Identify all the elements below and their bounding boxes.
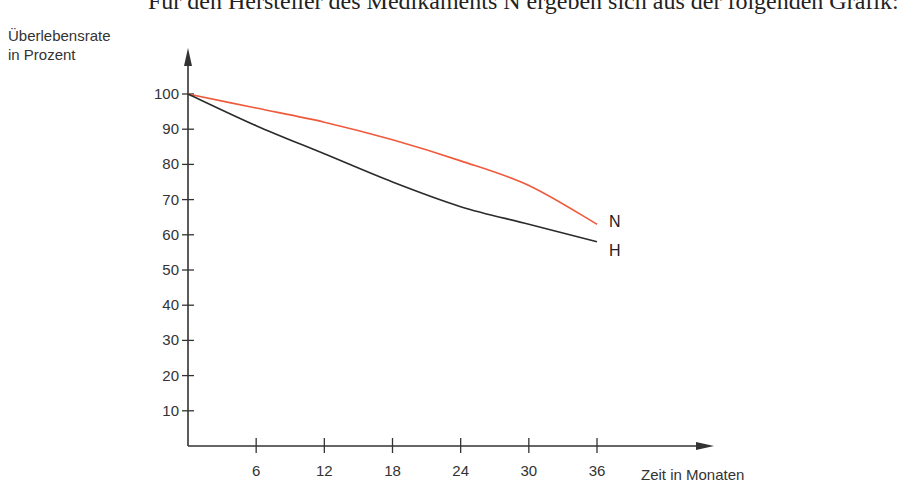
y-tick-label: 50 <box>162 261 179 278</box>
series-line-h <box>188 94 597 242</box>
y-tick-label: 60 <box>162 226 179 243</box>
x-axis-arrow-icon <box>696 442 714 450</box>
series-label-h: H <box>609 242 621 259</box>
x-tick-label: 6 <box>252 462 260 479</box>
x-tick-label: 36 <box>589 462 606 479</box>
y-tick-label: 80 <box>162 155 179 172</box>
series-line-n <box>188 94 597 224</box>
y-tick-label: 90 <box>162 120 179 137</box>
y-tick-label: 70 <box>162 191 179 208</box>
series-label-n: N <box>609 213 621 230</box>
y-axis-arrow-icon <box>184 48 192 66</box>
y-tick-label: 40 <box>162 296 179 313</box>
y-tick-label: 20 <box>162 367 179 384</box>
y-tick-label: 10 <box>162 402 179 419</box>
x-tick-label: 30 <box>520 462 537 479</box>
x-tick-label: 24 <box>452 462 469 479</box>
y-tick-label: 30 <box>162 331 179 348</box>
x-tick-label: 12 <box>316 462 333 479</box>
y-tick-label: 100 <box>154 85 179 102</box>
x-tick-label: 18 <box>384 462 401 479</box>
